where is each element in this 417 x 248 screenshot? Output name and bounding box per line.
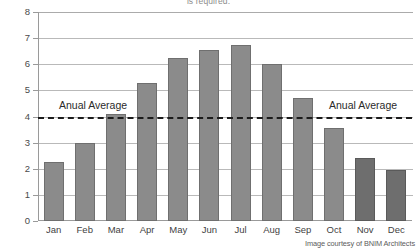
x-axis-tick-label: Oct bbox=[318, 224, 349, 235]
y-axis-tick-label: 6 bbox=[0, 59, 30, 69]
y-axis-tick-mark bbox=[33, 38, 38, 39]
x-axis-tick-label: Jan bbox=[38, 224, 69, 235]
bar bbox=[44, 162, 64, 221]
y-axis-tick-mark bbox=[33, 143, 38, 144]
x-axis-tick-label: Sep bbox=[287, 224, 318, 235]
y-axis-tick-mark bbox=[33, 117, 38, 118]
bar bbox=[137, 83, 157, 221]
y-axis-tick-label: 7 bbox=[0, 33, 30, 43]
y-axis-tick-label: 5 bbox=[0, 85, 30, 95]
y-axis-tick-label: 0 bbox=[0, 216, 30, 226]
bar bbox=[75, 143, 95, 221]
bar bbox=[355, 158, 375, 221]
y-axis-tick-mark bbox=[33, 64, 38, 65]
y-axis-tick-label: 4 bbox=[0, 112, 30, 122]
bar bbox=[106, 114, 126, 221]
x-axis-tick-label: Nov bbox=[350, 224, 381, 235]
y-axis-tick-mark bbox=[33, 169, 38, 170]
x-axis-tick-label: Mar bbox=[100, 224, 131, 235]
y-axis-tick-mark bbox=[33, 90, 38, 91]
y-axis-tick-mark bbox=[33, 12, 38, 13]
y-axis-tick-label: 1 bbox=[0, 190, 30, 200]
y-axis-tick-label: 2 bbox=[0, 164, 30, 174]
x-axis-tick-label: Jun bbox=[194, 224, 225, 235]
x-axis-tick-label: May bbox=[163, 224, 194, 235]
bar bbox=[324, 128, 344, 221]
cut-off-caption-text: is required. bbox=[0, 0, 417, 7]
image-credit: Image courtesy of BNIM Architects bbox=[305, 239, 415, 248]
annual-average-line bbox=[38, 117, 412, 119]
y-axis-tick-label: 3 bbox=[0, 138, 30, 148]
y-axis-tick-mark bbox=[33, 221, 38, 222]
annual-average-label-left: Anual Average bbox=[56, 99, 130, 111]
x-axis-tick-label: Apr bbox=[132, 224, 163, 235]
x-axis-tick-label: Feb bbox=[69, 224, 100, 235]
bar bbox=[168, 58, 188, 221]
y-axis-tick-mark bbox=[33, 195, 38, 196]
x-axis-tick-label: Aug bbox=[256, 224, 287, 235]
x-axis-tick-label: Jul bbox=[225, 224, 256, 235]
bar bbox=[262, 64, 282, 221]
bar-chart-figure: is required. Anual Average Anual Average… bbox=[0, 0, 417, 248]
bar bbox=[231, 45, 251, 221]
y-axis-tick-label: 8 bbox=[0, 7, 30, 17]
x-axis-labels: JanFebMarAprMayJunJulAugSepOctNovDec bbox=[38, 224, 412, 235]
bar bbox=[199, 50, 219, 221]
bar bbox=[386, 170, 406, 221]
x-axis-tick-label: Dec bbox=[381, 224, 412, 235]
annual-average-label-right: Anual Average bbox=[326, 99, 400, 111]
